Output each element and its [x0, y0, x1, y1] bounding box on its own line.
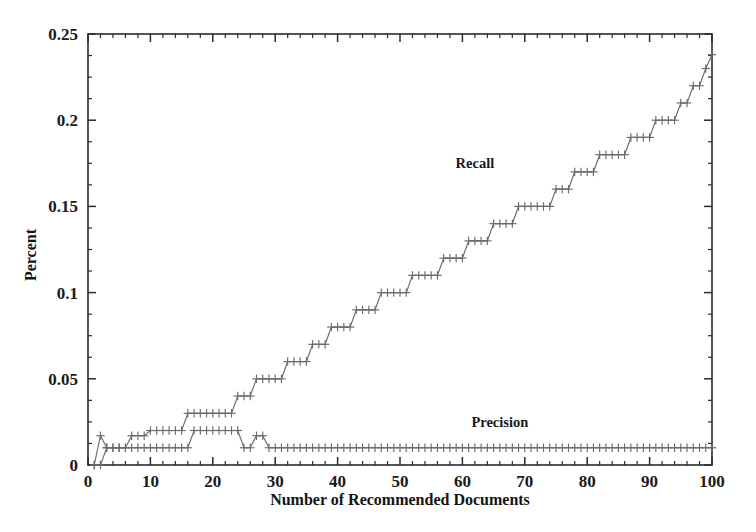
- x-tick-label: 90: [641, 472, 658, 491]
- series-label-recall: Recall: [456, 155, 495, 171]
- x-tick-label: 80: [579, 472, 596, 491]
- x-tick-label: 70: [516, 472, 533, 491]
- y-tick-label: 0.05: [48, 370, 78, 389]
- y-tick-label: 0: [70, 456, 79, 475]
- x-tick-label: 30: [267, 472, 284, 491]
- x-tick-label: 0: [84, 472, 93, 491]
- y-tick-label: 0.1: [57, 284, 78, 303]
- y-tick-label: 0.25: [48, 25, 78, 44]
- precision-recall-chart: 0102030405060708090100 00.050.10.150.20.…: [0, 0, 756, 532]
- x-tick-label: 20: [204, 472, 221, 491]
- x-tick-label: 100: [699, 472, 725, 491]
- x-tick-label: 60: [454, 472, 471, 491]
- y-tick-label: 0.15: [48, 197, 78, 216]
- x-tick-label: 10: [142, 472, 159, 491]
- chart-figure: 0102030405060708090100 00.050.10.150.20.…: [0, 0, 756, 532]
- y-axis-title: Percent: [22, 228, 39, 281]
- series-label-precision: Precision: [471, 414, 528, 430]
- y-tick-label: 0.2: [57, 111, 78, 130]
- chart-background: [0, 0, 756, 532]
- x-tick-label: 50: [392, 472, 409, 491]
- x-axis-title: Number of Recommended Documents: [270, 491, 530, 508]
- x-tick-label: 40: [329, 472, 346, 491]
